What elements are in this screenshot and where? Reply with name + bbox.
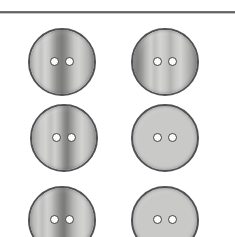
button-disc <box>131 186 199 237</box>
button-stripes <box>28 28 96 96</box>
button-stripes <box>131 28 199 96</box>
button-swatch[interactable] <box>28 186 96 237</box>
button-swatch[interactable] <box>30 104 98 172</box>
button-stripes <box>131 186 199 237</box>
button-hole <box>153 133 162 142</box>
button-disc <box>131 104 199 172</box>
button-hole <box>153 57 162 66</box>
button-disc <box>131 28 199 96</box>
button-hole <box>52 133 61 142</box>
button-hole <box>168 215 177 224</box>
button-hole <box>67 133 76 142</box>
button-swatch[interactable] <box>131 186 199 237</box>
button-swatch[interactable] <box>28 28 96 96</box>
button-grid <box>0 0 235 237</box>
button-disc <box>28 186 96 237</box>
button-hole <box>65 57 74 66</box>
button-hole <box>153 215 162 224</box>
swatch-sheet <box>0 0 235 237</box>
button-swatch[interactable] <box>131 28 199 96</box>
button-hole <box>168 57 177 66</box>
button-swatch[interactable] <box>131 104 199 172</box>
button-disc <box>30 104 98 172</box>
button-hole <box>50 215 59 224</box>
button-stripes <box>30 104 98 172</box>
button-disc <box>28 28 96 96</box>
button-hole <box>65 215 74 224</box>
button-stripes <box>131 104 199 172</box>
button-hole <box>168 133 177 142</box>
button-hole <box>50 57 59 66</box>
button-stripes <box>28 186 96 237</box>
